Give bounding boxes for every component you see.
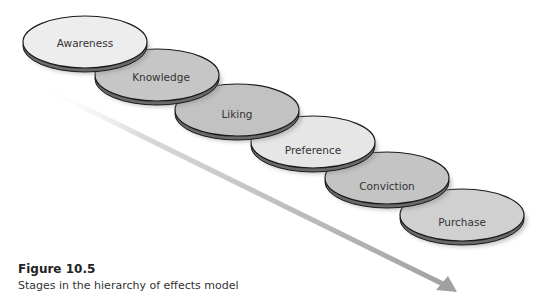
hierarchy-diagram: Purchase Conviction Preference Liking Kn… [0,0,550,304]
stage-label-conviction: Conviction [359,180,414,192]
stage-label-knowledge: Knowledge [132,71,190,83]
figure-caption: Figure 10.5 Stages in the hierarchy of e… [18,262,239,292]
stage-label-liking: Liking [221,108,252,120]
figure-number: Figure 10.5 [18,262,239,276]
stage-label-preference: Preference [285,144,341,156]
stage-label-awareness: Awareness [57,37,113,49]
stage-label-purchase: Purchase [438,216,486,228]
stage-awareness: Awareness [23,16,150,74]
figure-description: Stages in the hierarchy of effects model [18,279,239,292]
